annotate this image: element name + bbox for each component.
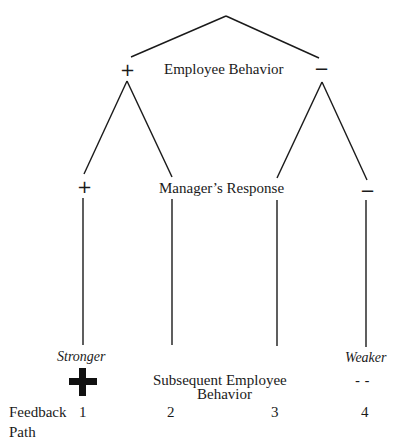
edge-positive-left bbox=[84, 81, 127, 174]
weak-minus-symbol: - - bbox=[355, 374, 370, 388]
employee-behavior-label: Employee Behavior bbox=[164, 62, 284, 77]
level1-plus-sign: + bbox=[120, 61, 135, 79]
level1-minus-sign: − bbox=[314, 60, 329, 78]
weaker-label: Weaker bbox=[345, 351, 386, 365]
edge-negative-left bbox=[277, 82, 322, 178]
level2-plus-sign: + bbox=[77, 178, 92, 196]
level2-minus-sign: − bbox=[360, 182, 375, 200]
path-number-2: 2 bbox=[167, 405, 175, 420]
stronger-label: Stronger bbox=[57, 350, 105, 364]
path-number-3: 3 bbox=[271, 405, 279, 420]
path-number-4: 4 bbox=[361, 405, 369, 420]
subsequent-behavior-label: Behavior bbox=[197, 387, 252, 402]
path-label: Path bbox=[9, 425, 36, 440]
edge-negative-right bbox=[322, 82, 367, 180]
path-number-1: 1 bbox=[79, 405, 87, 420]
edge-positive-right bbox=[127, 81, 172, 177]
feedback-label: Feedback bbox=[9, 405, 66, 420]
strong-plus-icon bbox=[69, 368, 97, 396]
managers-response-label: Manager’s Response bbox=[159, 181, 284, 196]
edge-root-right bbox=[226, 16, 319, 58]
edge-root-left bbox=[131, 16, 226, 57]
